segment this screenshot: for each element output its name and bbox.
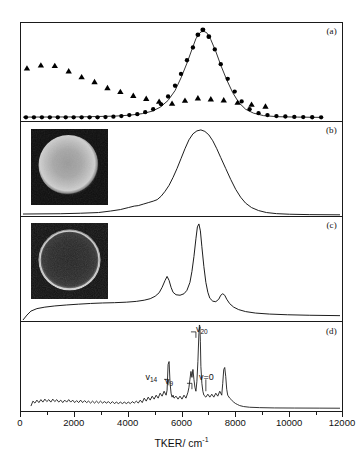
x-tick-label-12000: 12000 xyxy=(329,417,355,428)
panel-c: (c) xyxy=(20,217,343,322)
panel-d: v20 v14 v9 v=0 (d) xyxy=(20,322,343,412)
panel-a: (a) xyxy=(20,22,343,122)
panel-d-plot xyxy=(21,322,342,411)
x-axis: 0 2000 4000 6000 8000 10000 12000 xyxy=(20,412,343,436)
annotation-v20: v20 xyxy=(196,324,208,335)
annotation-v0: v=0 xyxy=(199,372,214,382)
panel-b-label: (b) xyxy=(326,125,337,135)
panel-c-label: (c) xyxy=(326,220,337,230)
inset-image-b xyxy=(31,129,108,205)
x-tick-label-10000: 10000 xyxy=(276,417,302,428)
panel-stack: (a) xyxy=(20,22,343,412)
panel-b: (b) xyxy=(20,122,343,217)
panel-d-label: (d) xyxy=(326,326,337,336)
x-axis-title-text: TKER/ cm xyxy=(154,437,202,449)
velocity-map-image-b xyxy=(31,129,108,205)
x-tick-label-2000: 2000 xyxy=(63,417,84,428)
x-tick-label-4000: 4000 xyxy=(117,417,138,428)
annotation-v14: v14 xyxy=(146,372,158,383)
annotation-v9: v9 xyxy=(165,376,173,387)
x-tick-label-0: 0 xyxy=(17,417,22,428)
panel-a-plot xyxy=(21,23,342,121)
velocity-map-image-c xyxy=(31,223,108,299)
x-axis-title: TKER/ cm-1 xyxy=(0,436,363,449)
figure-root: (a) xyxy=(0,0,364,474)
inset-image-c xyxy=(31,223,108,299)
spectrum-trace-d xyxy=(31,325,340,408)
panel-a-label: (a) xyxy=(326,26,337,36)
x-tick-label-8000: 8000 xyxy=(225,417,246,428)
triangle-markers xyxy=(24,62,269,109)
x-axis-title-exponent: -1 xyxy=(202,436,208,443)
x-tick-label-6000: 6000 xyxy=(171,417,192,428)
